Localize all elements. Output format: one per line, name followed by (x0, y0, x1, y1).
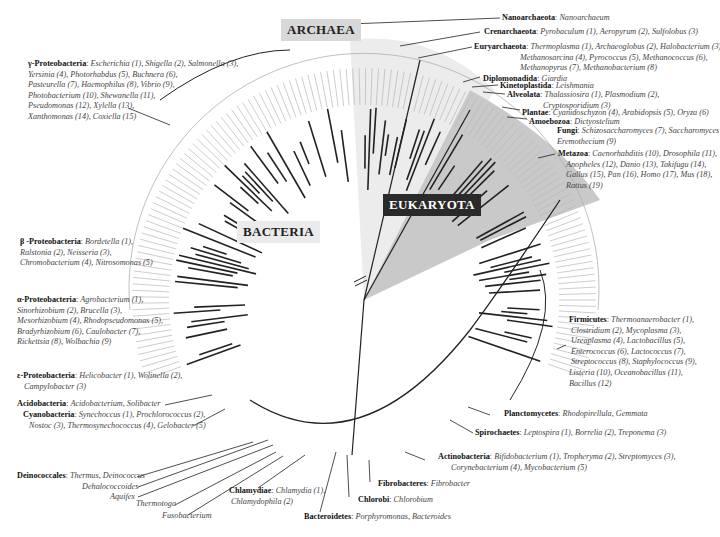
domain-label-eukaryota: EUKARYOTA (383, 194, 481, 216)
label-euryarchaeota: Euryarchaeota: Thermoplasma (1), Archaeo… (474, 42, 720, 74)
label-actinobacteria: Actinobacteria: Bifidobacterium (1), Tro… (438, 452, 675, 473)
domain-label-bacteria: BACTERIA (237, 221, 320, 243)
label-crenarchaeota: Crenarchaeota: Pyrobaculum (1), Aeropyru… (484, 27, 698, 38)
label-spirochaetes: Spirochaetes: Leptospira (1), Borrelia (… (475, 428, 666, 439)
label-aquifex: Aquifex (110, 492, 135, 503)
label-planctomycetes: Planctomycetes: Rhodopirellula, Gemmata (504, 409, 648, 420)
label-fibrobacteres: Fibrobacteres: Fibrobacter (378, 479, 470, 490)
label-dehalococcoides: Dehalococcoides (82, 482, 138, 493)
label-gamma-proteobacteria: γ-Proteobacteria: Escherichia (1), Shige… (28, 59, 238, 123)
label-acidobacteria: Acidobacteria: Acidobacterium, Solibacte… (17, 399, 161, 410)
domain-label-archaea: ARCHAEA (281, 19, 361, 41)
label-firmicutes: Firmicutes: Thermoanaerobacter (1),Clost… (569, 315, 697, 389)
label-cyanobacteria: Cyanobacteria: Synechoccus (1), Prochlor… (23, 410, 206, 431)
label-beta-proteobacteria: β -Proteobacteria: Bordetella (1),Ralsto… (20, 237, 153, 269)
label-bacteroidetes: Bacteroidetes: Porphyromonas, Bacteroide… (304, 512, 451, 523)
label-nanoarchaeota: Nanoarchaeota: Nanoarchaeum (502, 13, 610, 24)
label-fungi: Fungi: Schizosaccharomyces (7), Saccharo… (557, 126, 720, 147)
label-alpha-proteobacteria: α-Proteobacteria: Agrobacterium (1),Sino… (17, 295, 163, 348)
label-chlamydiae: Chlamydiae: Chlamydia (1),Chlamydophila … (229, 486, 325, 507)
label-deinococcales: Deinococcales: Thermus, Deinococcus (17, 471, 145, 482)
label-fusobacterium: Fusobacterium (162, 511, 212, 522)
label-metazoa: Metazoa: Caenorhabditis (10), Drosophila… (558, 149, 717, 191)
label-epsilon-proteobacteria: ε-Proteobacteria: Helicobacter (1), Woli… (17, 371, 182, 392)
label-chlorobi: Chlorobi: Chlorobium (358, 495, 433, 506)
label-thermotoga: Thermotoga (136, 499, 176, 510)
